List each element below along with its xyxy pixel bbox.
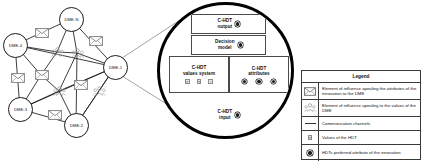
c-hdt-input-label: C-HDT input	[218, 109, 233, 120]
legend-row: Element of influence apealing to the val…	[302, 100, 420, 117]
people-group-icon	[53, 86, 66, 97]
c-hdt-attributes-label: C-HDT attributes	[248, 66, 269, 77]
c-hdt-input-card[interactable]: C-HDT input	[191, 105, 266, 125]
c-hdt-values-system-label: C-HDT values system	[183, 65, 215, 76]
people-group-icon	[51, 47, 64, 58]
preferred-attribute-dot-icon	[239, 43, 242, 46]
people-group-icon	[71, 48, 84, 59]
legend-row: Element of influence apealing the attrib…	[302, 83, 420, 100]
legend-row-text: Element of influence apealing the attrib…	[319, 83, 420, 99]
legend-row-text: Values of the HDT	[319, 131, 420, 144]
envelope-icon	[48, 110, 62, 120]
values-marker-row	[185, 79, 213, 84]
envelope-icon	[74, 80, 88, 90]
preferred-attribute-dot-icon	[302, 145, 319, 161]
c-hdt-values-system-card[interactable]: C-HDT values system	[169, 56, 229, 93]
envelope-icon	[35, 70, 49, 80]
dme-node-n[interactable]: DME-N	[59, 7, 84, 32]
people-group-icon	[302, 100, 319, 116]
dme-network-diagram: DME-N DME-4 DME-1 DME-3 DME-2	[0, 0, 160, 163]
legend-row-text: Element of influence apealing to the val…	[319, 100, 420, 116]
legend-row: Communication channels	[302, 117, 420, 131]
attribute-dot-icon	[272, 80, 275, 83]
preferred-attribute-dot-icon	[236, 113, 239, 116]
dme-node-label: DME-1	[109, 65, 122, 70]
value-square-icon	[185, 79, 190, 84]
legend: Legend Element of influence apealing the…	[301, 70, 421, 160]
attribute-dot-icon	[257, 80, 260, 83]
dme-node-2[interactable]: DME-2	[64, 113, 89, 138]
attribute-dot-icon	[243, 80, 246, 83]
c-hdt-output-label: C-HDT output	[218, 18, 233, 29]
c-hdt-output-card[interactable]: C-HDT output	[191, 14, 266, 34]
legend-row-text: HDTs preferred attribute of the innovati…	[319, 145, 420, 161]
envelope-icon	[35, 28, 49, 38]
preferred-attribute-dot-icon	[236, 22, 239, 25]
value-square-icon	[197, 79, 202, 84]
people-group-icon	[93, 86, 106, 97]
figure-canvas: DME-N DME-4 DME-1 DME-3 DME-2	[0, 0, 424, 163]
legend-row: Values of the HDT	[302, 131, 420, 145]
c-hdt-attributes-card[interactable]: C-HDT attributes	[229, 56, 289, 93]
line-icon	[302, 117, 319, 130]
value-square-icon	[302, 131, 319, 144]
value-square-icon	[208, 79, 213, 84]
dme-node-3[interactable]: DME-3	[8, 97, 33, 122]
envelope-icon	[11, 73, 25, 83]
decision-model-card[interactable]: Decision model	[191, 35, 266, 55]
legend-title: Legend	[302, 71, 420, 83]
envelope-icon	[302, 83, 319, 99]
dme-node-label: DME-3	[14, 107, 27, 112]
dme-node-label: DME-N	[65, 17, 79, 22]
envelope-icon	[89, 36, 103, 46]
dme-node-label: DME-2	[70, 123, 83, 128]
c-hdt-magnifier-circle: C-HDT output Decision model C-HDT values…	[157, 2, 294, 139]
legend-row-text: Communication channels	[319, 117, 420, 130]
attributes-marker-row	[243, 80, 275, 83]
legend-row: HDTs preferred attribute of the innovati…	[302, 145, 420, 161]
dme-node-label: DME-4	[9, 43, 22, 48]
dme-node-4[interactable]: DME-4	[3, 33, 28, 58]
dme-node-1[interactable]: DME-1	[103, 55, 128, 80]
decision-model-label: Decision model	[215, 39, 235, 50]
